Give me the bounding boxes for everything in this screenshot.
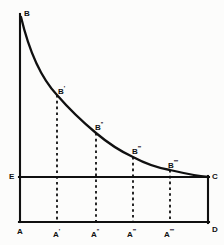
point-label-b-double-prime: B''	[95, 121, 103, 132]
point-label-b-prime: B'	[58, 85, 65, 96]
axis-label-a-quadruple-prime: A''''	[164, 228, 174, 239]
utility-curve-bc	[21, 17, 208, 177]
axis-label-e: E	[9, 173, 14, 181]
diagram-canvas	[0, 0, 224, 245]
prime-marks: ''	[101, 121, 103, 127]
point-label-b-triple-prime: B'''	[132, 145, 141, 156]
prime-marks: '	[59, 228, 60, 234]
axis-label-a: A	[17, 228, 23, 236]
prime-marks: ''	[97, 228, 99, 234]
point-label-b: B	[24, 10, 30, 18]
axis-label-d: D	[212, 226, 218, 234]
prime-marks: ''''	[174, 159, 178, 165]
prime-marks: '	[64, 85, 65, 91]
point-label-b-quadruple-prime: B''''	[168, 159, 178, 170]
prime-marks: '''	[133, 228, 136, 234]
axis-label-a-triple-prime: A'''	[127, 228, 136, 239]
prime-marks: '''	[138, 145, 141, 151]
point-label-c: C	[212, 173, 218, 181]
prime-marks: ''''	[170, 228, 174, 234]
axis-label-a-double-prime: A''	[91, 228, 99, 239]
utility-curve-figure: B B' B'' B''' B'''' C A A' A'' A''' A'''…	[0, 0, 224, 245]
axis-label-a-prime: A'	[53, 228, 60, 239]
